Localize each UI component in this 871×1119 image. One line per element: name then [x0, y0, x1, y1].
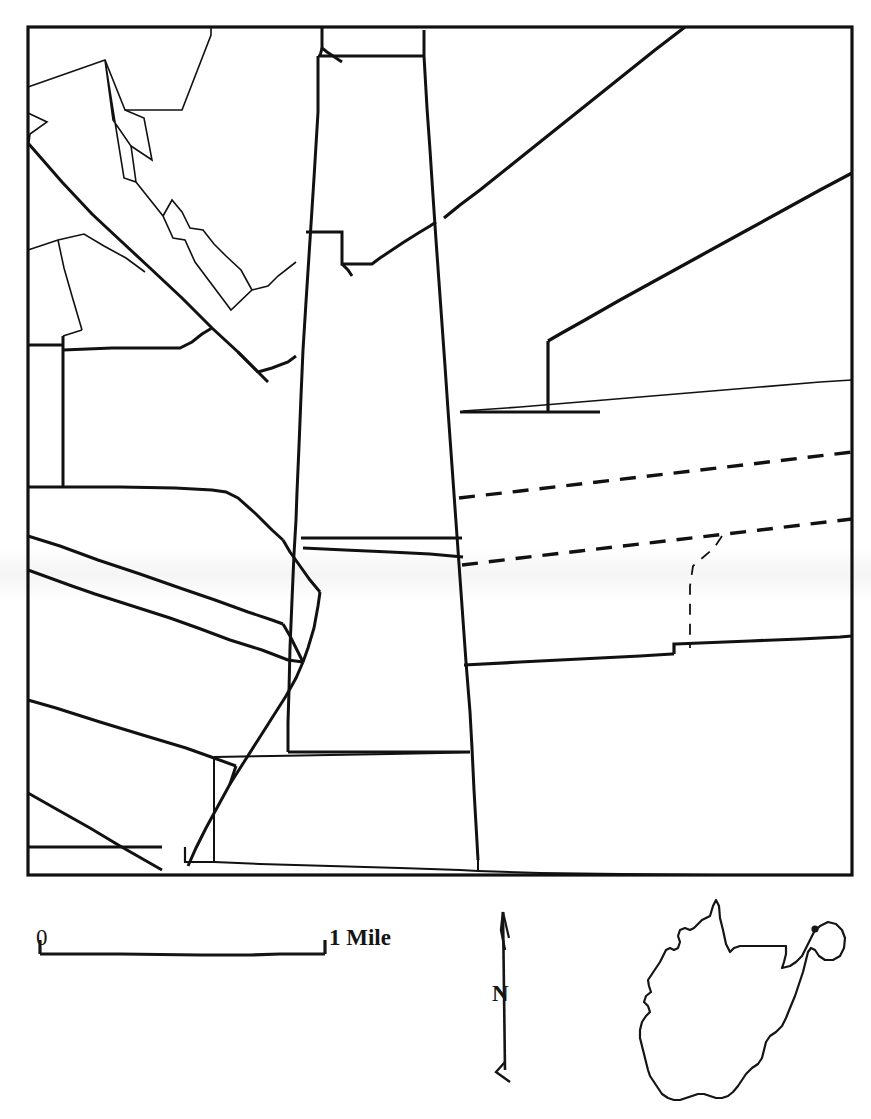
map-legend-canvas: [0, 0, 871, 1119]
study-area-dot: [811, 925, 818, 932]
scale-bar-graphic: [40, 940, 325, 955]
scale-bar-max-label: 1 Mile: [329, 926, 391, 949]
north-arrow-label: N: [492, 982, 509, 1005]
map-page: 0 1 Mile N: [0, 0, 871, 1119]
scale-bar-zero-label: 0: [36, 926, 48, 949]
